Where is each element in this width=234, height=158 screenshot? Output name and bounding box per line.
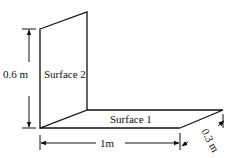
depth-label: 0.3 m (199, 126, 222, 154)
surface-2-label: Surface 2 (44, 68, 86, 80)
length-label: 1m (100, 137, 115, 149)
surface-1-label: Surface 1 (110, 113, 152, 125)
height-label: 0.6 m (3, 68, 29, 80)
geometry-diagram: 0.6 m Surface 2 Surface 1 1m 0.3 m (0, 0, 234, 158)
